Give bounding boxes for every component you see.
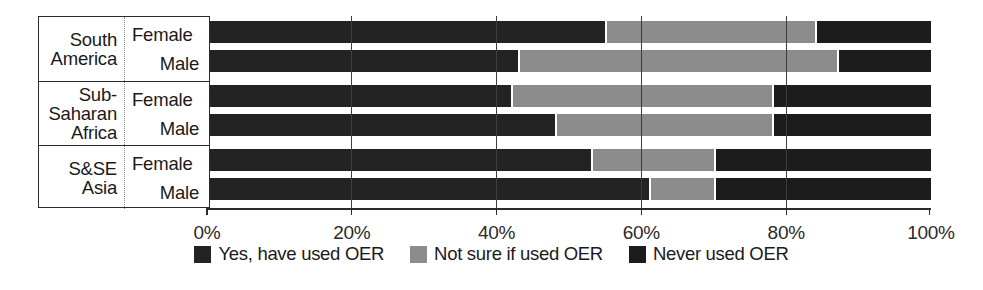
bar-segment-never xyxy=(772,114,931,136)
region-name-line: S&SE xyxy=(68,159,117,178)
bar-row xyxy=(207,114,931,136)
gender-label-female: Female xyxy=(132,20,209,49)
axis-tick-label: 100% xyxy=(907,222,954,244)
bar-segment-yes xyxy=(207,50,518,72)
region-name-line: Asia xyxy=(82,178,117,197)
region-name-south-america: South America xyxy=(39,17,125,81)
bar-segment-never xyxy=(772,85,931,107)
bar-segment-never xyxy=(714,178,931,200)
region-name-sub-saharan-africa: Sub- Saharan Africa xyxy=(39,82,125,145)
category-label-table: South America Female Male Sub- Saharan A… xyxy=(38,16,210,208)
axis-tick xyxy=(929,208,930,215)
region-name-line: Sub- xyxy=(79,85,117,104)
axis-tick-label: 20% xyxy=(333,222,370,244)
legend-swatch xyxy=(410,246,427,263)
axis-tick xyxy=(641,208,642,215)
bar-row xyxy=(207,21,931,43)
gender-column: Female Male xyxy=(125,146,209,209)
bar-row xyxy=(207,50,931,72)
bar-segment-yes xyxy=(207,85,511,107)
legend-label: Never used OER xyxy=(653,243,789,265)
stacked-bar-chart: South America Female Male Sub- Saharan A… xyxy=(0,0,983,290)
bar-segment-yes xyxy=(207,21,605,43)
bar-segment-not-sure xyxy=(555,114,772,136)
gridline xyxy=(641,16,642,208)
bar-segment-yes xyxy=(207,114,555,136)
gridline xyxy=(786,16,787,208)
bar-segment-yes xyxy=(207,149,591,171)
gender-column: Female Male xyxy=(125,17,209,81)
bar-segment-not-sure xyxy=(649,178,714,200)
region-name-line: Saharan xyxy=(48,104,117,123)
region-name-s-and-se-asia: S&SE Asia xyxy=(39,146,125,209)
gridline xyxy=(496,16,497,208)
region-name-line: Africa xyxy=(71,123,117,142)
bar-row xyxy=(207,178,931,200)
region-block-s-and-se-asia: S&SE Asia Female Male xyxy=(39,145,209,209)
plot-area: 0%20%40%60%80%100% xyxy=(207,16,931,208)
bar-row xyxy=(207,149,931,171)
gender-label-male: Male xyxy=(132,49,209,78)
bar-segment-not-sure xyxy=(518,50,837,72)
axis-tick xyxy=(786,208,787,215)
legend-swatch xyxy=(629,246,646,263)
bar-segment-yes xyxy=(207,178,649,200)
axis-tick xyxy=(206,208,207,215)
legend-item: Not sure if used OER xyxy=(410,243,603,265)
bar-segment-never xyxy=(837,50,931,72)
region-name-line: South xyxy=(70,30,117,49)
legend-label: Yes, have used OER xyxy=(218,243,384,265)
gender-column: Female Male xyxy=(125,82,209,145)
bar-segment-not-sure xyxy=(591,149,714,171)
gridline xyxy=(351,16,352,208)
axis-tick-label: 60% xyxy=(623,222,660,244)
axis-tick-label: 80% xyxy=(768,222,805,244)
legend-label: Not sure if used OER xyxy=(434,243,603,265)
bar-row xyxy=(207,85,931,107)
axis-tick-label: 40% xyxy=(478,222,515,244)
region-block-sub-saharan-africa: Sub- Saharan Africa Female Male xyxy=(39,81,209,145)
bar-segment-not-sure xyxy=(605,21,815,43)
gender-label-male: Male xyxy=(132,114,209,143)
legend-item: Never used OER xyxy=(629,243,789,265)
region-name-line: America xyxy=(51,49,117,68)
gender-label-female: Female xyxy=(132,149,209,178)
region-block-south-america: South America Female Male xyxy=(39,17,209,81)
gender-label-female: Female xyxy=(132,85,209,114)
axis-tick-label: 0% xyxy=(194,222,221,244)
axis-tick xyxy=(351,208,352,215)
gender-label-male: Male xyxy=(132,178,209,207)
axis-tick xyxy=(496,208,497,215)
legend-item: Yes, have used OER xyxy=(194,243,384,265)
x-axis-baseline xyxy=(207,208,931,210)
chart-legend: Yes, have used OERNot sure if used OERNe… xyxy=(0,243,983,265)
bar-segment-never xyxy=(815,21,931,43)
legend-swatch xyxy=(194,246,211,263)
bar-segment-never xyxy=(714,149,931,171)
